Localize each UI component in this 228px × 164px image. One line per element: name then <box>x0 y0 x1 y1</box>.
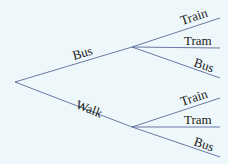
label-walk-tram: Tram <box>184 112 212 127</box>
label-walk: Walk <box>74 97 105 121</box>
label-walk-bus: Bus <box>192 134 216 155</box>
branch-walk <box>15 82 132 127</box>
label-bus-tram: Tram <box>184 33 212 48</box>
label-walk-train: Train <box>178 86 209 109</box>
label-bus: Bus <box>71 43 95 63</box>
label-bus-train: Train <box>178 5 209 28</box>
label-bus-bus: Bus <box>192 55 216 76</box>
tree-diagram-canvas: Bus Walk Train Tram Bus Train Tram Bus <box>0 0 228 164</box>
tree-diagram: Bus Walk Train Tram Bus Train Tram Bus <box>0 0 228 164</box>
